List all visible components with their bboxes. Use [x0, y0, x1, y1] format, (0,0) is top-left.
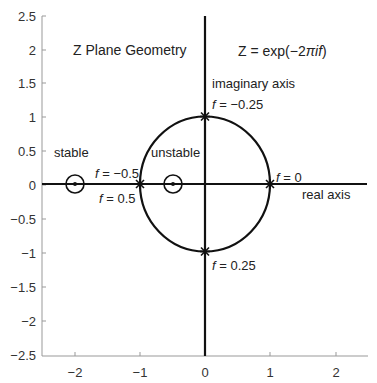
f-neg025-label: f = −0.25	[212, 97, 263, 112]
y-tick-label: 0	[29, 178, 36, 193]
y-ticks: 2.5 2 1.5 1 0.5 0 −0.5 −1 −1.5 −2 −2.5	[10, 9, 46, 363]
x-tick-label: 2	[332, 365, 339, 380]
y-tick-label: 2.5	[18, 9, 36, 24]
asterisk-icon	[265, 179, 275, 189]
f-0-label: f = 0	[276, 170, 302, 185]
formula-label: Z = exp(−2πif)	[238, 43, 327, 59]
y-tick-label: 0.5	[18, 144, 36, 159]
x-tick-label: 1	[266, 365, 273, 380]
x-tick-label: −1	[133, 365, 148, 380]
y-tick-label: 2	[29, 43, 36, 58]
y-tick-label: 1	[29, 110, 36, 125]
f-025-label: f = 0.25	[212, 258, 256, 273]
y-tick-label: −1	[21, 246, 36, 261]
y-tick-label: −2.5	[10, 348, 36, 363]
stable-label: stable	[54, 145, 89, 160]
f-neg05-label: f = −0.5	[95, 166, 139, 181]
unstable-label: unstable	[151, 145, 200, 160]
y-tick-label: −0.5	[10, 212, 36, 227]
imaginary-axis-label: imaginary axis	[212, 76, 296, 91]
asterisk-icon	[200, 247, 210, 257]
z-plane-diagram: 2.5 2 1.5 1 0.5 0 −0.5 −1 −1.5 −2 −2.5 −…	[0, 0, 377, 383]
y-tick-label: 1.5	[18, 76, 36, 91]
x-tick-label: −2	[68, 365, 83, 380]
diagram-title: Z Plane Geometry	[73, 42, 187, 58]
asterisk-icon	[200, 112, 210, 122]
y-tick-label: −2	[21, 314, 36, 329]
x-tick-label: 0	[201, 365, 208, 380]
real-axis-label: real axis	[302, 187, 351, 202]
f-05-label: f = 0.5	[99, 191, 136, 206]
y-tick-label: −1.5	[10, 280, 36, 295]
